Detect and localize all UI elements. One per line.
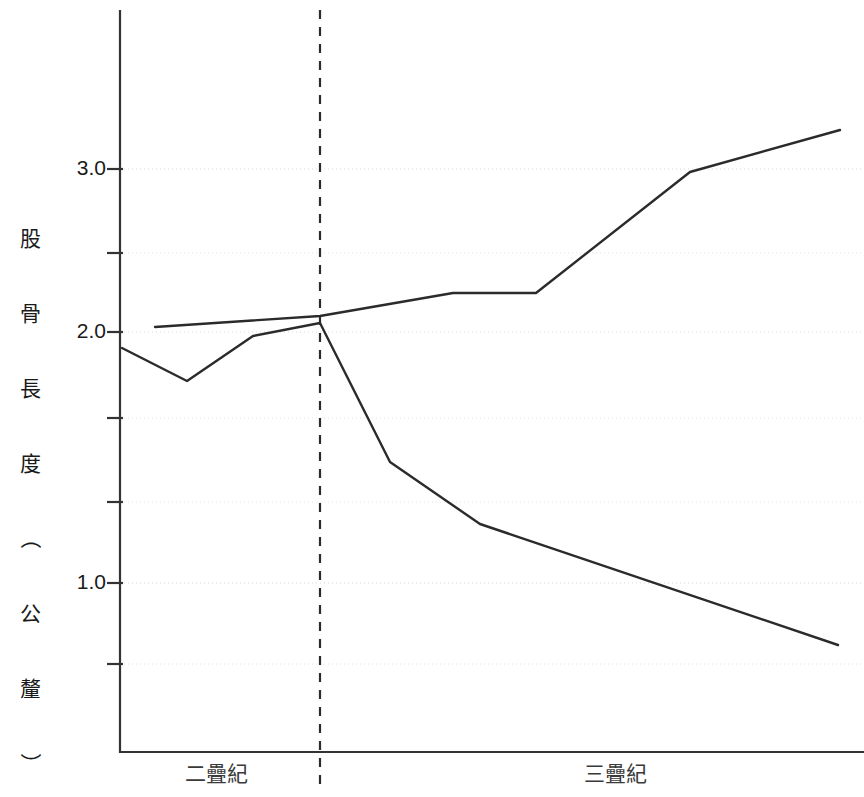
y-axis-label-char-1: 骨 <box>8 301 52 326</box>
y-axis-label-char-3: 度 <box>8 451 52 476</box>
y-axis-label-char-6: 釐 <box>8 676 52 701</box>
series-line-descending <box>122 323 838 645</box>
ytick-label-3.0: 3.0 <box>60 156 106 180</box>
y-axis-label-char-7: ） <box>18 742 43 786</box>
xtick-label-permian: 二疊紀 <box>185 757 248 787</box>
series-line-ascending <box>155 130 840 327</box>
gridlines <box>120 169 864 664</box>
y-axis-label-char-4: （ <box>18 517 43 561</box>
y-axis-label: 股 骨 長 度 （ 公 釐 ） 對 數 值 <box>8 176 52 797</box>
y-axis-label-char-0: 股 <box>8 226 52 251</box>
chart-figure: 1.0 2.0 3.0 股 骨 長 度 （ 公 釐 ） 對 數 值 二疊紀 三疊… <box>0 0 864 797</box>
xtick-label-triassic: 三疊紀 <box>584 757 647 787</box>
chart-canvas <box>0 0 864 797</box>
ytick-label-1.0: 1.0 <box>60 570 106 594</box>
y-axis-label-char-2: 長 <box>8 376 52 401</box>
y-axis-label-char-5: 公 <box>8 601 52 626</box>
ytick-label-2.0: 2.0 <box>60 319 106 343</box>
